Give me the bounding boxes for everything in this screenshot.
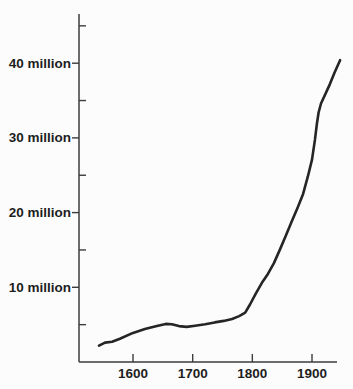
x-axis-tick-label: 1600 bbox=[118, 366, 148, 381]
chart-canvas: 10 million20 million30 million40 million… bbox=[0, 0, 353, 389]
x-axis-tick-label: 1900 bbox=[297, 366, 327, 381]
y-axis-tick-label: 30 million bbox=[9, 130, 71, 145]
population-growth-chart: 10 million20 million30 million40 million… bbox=[0, 0, 353, 389]
y-axis-tick-label: 10 million bbox=[9, 280, 71, 295]
population-curve bbox=[99, 60, 340, 345]
x-axis-tick-label: 1800 bbox=[237, 366, 267, 381]
x-axis-tick-label: 1700 bbox=[178, 366, 208, 381]
y-axis-tick-label: 20 million bbox=[9, 205, 71, 220]
y-axis-tick-label: 40 million bbox=[9, 56, 71, 71]
